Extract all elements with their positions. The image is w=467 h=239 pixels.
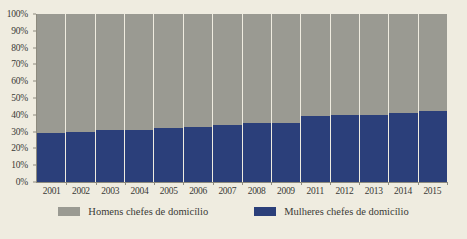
y-axis-tick-label: 80%	[11, 43, 28, 53]
y-axis-tick-mark	[33, 81, 36, 82]
y-axis-line	[36, 14, 37, 183]
bar-segment-women	[360, 115, 388, 182]
bar-segment-women	[125, 130, 153, 182]
x-axis-tick-mark	[242, 182, 243, 185]
y-axis-tick-label: 10%	[11, 160, 28, 170]
x-axis-tick-label: 2011	[301, 186, 330, 196]
bar-column	[360, 14, 389, 182]
bar-segment-men	[213, 14, 241, 125]
bar-segment-women	[96, 130, 124, 182]
bar-column	[125, 14, 154, 182]
bar-column	[96, 14, 125, 182]
bar-segment-women	[184, 127, 212, 182]
x-axis-tick-label: 2013	[359, 186, 388, 196]
bar-segment-men	[301, 14, 329, 116]
bar-column	[154, 14, 183, 182]
x-axis-tick-mark	[418, 182, 419, 185]
x-axis-tick-mark	[447, 182, 448, 185]
stacked-bar-chart: 0%10%20%30%40%50%60%70%80%90%100% 200120…	[0, 0, 467, 239]
x-axis-tick-label: 2008	[242, 186, 271, 196]
x-axis-tick-labels: 2001200220032004200520062007200820092011…	[37, 186, 447, 196]
bar-segment-women	[389, 113, 417, 182]
y-axis-tick-mark	[33, 182, 36, 183]
y-axis-tick-label: 100%	[7, 9, 28, 19]
bar-column	[66, 14, 95, 182]
bar-segment-women	[243, 123, 271, 182]
bar-column	[272, 14, 301, 182]
bar-segment-men	[125, 14, 153, 130]
x-axis-tick-label: 2002	[66, 186, 95, 196]
bar-segment-men	[243, 14, 271, 123]
x-axis-tick-mark	[271, 182, 272, 185]
y-axis-tick-label: 0%	[16, 177, 28, 187]
bar-segment-men	[66, 14, 94, 132]
y-axis-tick-label: 40%	[11, 110, 28, 120]
bar-segment-men	[154, 14, 182, 128]
bar-column	[389, 14, 418, 182]
x-axis-tick-mark	[330, 182, 331, 185]
x-axis-tick-label: 2007	[213, 186, 242, 196]
bar-segment-men	[96, 14, 124, 130]
bar-segment-men	[360, 14, 388, 115]
x-axis-tick-label: 2009	[271, 186, 300, 196]
bar-column	[37, 14, 66, 182]
y-axis-tick-mark	[33, 14, 36, 15]
x-axis-tick-label: 2004	[125, 186, 154, 196]
x-axis-tick-mark	[125, 182, 126, 185]
legend-label: Homens chefes de domicílio	[88, 206, 208, 217]
x-axis-tick-mark	[66, 182, 67, 185]
y-axis-tick-labels: 0%10%20%30%40%50%60%70%80%90%100%	[0, 14, 33, 182]
x-axis-tick-mark	[301, 182, 302, 185]
bar-segment-men	[272, 14, 300, 123]
y-axis-tick-mark	[33, 165, 36, 166]
legend-item: Homens chefes de domicílio	[58, 206, 208, 217]
bar-segment-women	[419, 111, 447, 182]
y-axis-tick-label: 50%	[11, 93, 28, 103]
bar-segment-men	[184, 14, 212, 127]
bar-segment-men	[37, 14, 65, 133]
legend-color-swatch	[58, 207, 80, 216]
y-axis-tick-label: 60%	[11, 76, 28, 86]
x-axis-tick-mark	[359, 182, 360, 185]
x-axis-tick-label: 2014	[388, 186, 417, 196]
y-axis-tick-label: 90%	[11, 26, 28, 36]
x-axis-tick-mark	[213, 182, 214, 185]
bar-column	[184, 14, 213, 182]
bar-column	[331, 14, 360, 182]
y-axis-tick-mark	[33, 30, 36, 31]
x-axis-tick-label: 2012	[330, 186, 359, 196]
bar-segment-women	[331, 115, 359, 182]
bar-column	[213, 14, 242, 182]
bar-column	[301, 14, 330, 182]
bar-segment-men	[331, 14, 359, 115]
plot-area	[37, 14, 447, 182]
chart-legend: Homens chefes de domicílioMulheres chefe…	[0, 206, 467, 217]
y-axis-tick-mark	[33, 47, 36, 48]
bar-segment-women	[66, 132, 94, 182]
bar-segment-women	[301, 116, 329, 182]
bars-container	[37, 14, 447, 182]
x-axis-tick-label: 2015	[418, 186, 447, 196]
x-axis-tick-label: 2006	[183, 186, 212, 196]
x-axis-tick-label: 2003	[96, 186, 125, 196]
y-axis-tick-mark	[33, 114, 36, 115]
y-axis-tick-mark	[33, 98, 36, 99]
bar-column	[419, 14, 447, 182]
x-axis-tick-mark	[388, 182, 389, 185]
bar-segment-women	[37, 133, 65, 182]
y-axis-tick-label: 70%	[11, 59, 28, 69]
legend-color-swatch	[254, 207, 276, 216]
y-axis-tick-label: 30%	[11, 127, 28, 137]
x-axis-tick-label: 2005	[154, 186, 183, 196]
bar-segment-men	[419, 14, 447, 111]
bar-column	[243, 14, 272, 182]
bar-segment-men	[389, 14, 417, 113]
x-axis-tick-mark	[183, 182, 184, 185]
x-axis-tick-mark	[154, 182, 155, 185]
legend-label: Mulheres chefes de domicílio	[284, 206, 409, 217]
bar-segment-women	[272, 123, 300, 182]
y-axis-tick-mark	[33, 64, 36, 65]
y-axis-tick-mark	[33, 148, 36, 149]
x-axis-tick-mark	[96, 182, 97, 185]
bar-segment-women	[154, 128, 182, 182]
